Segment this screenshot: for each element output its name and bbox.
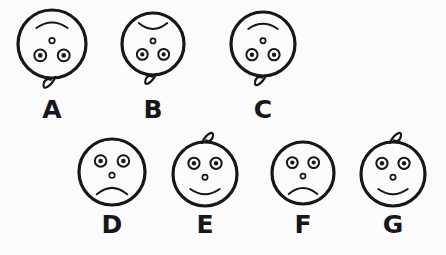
face-group xyxy=(173,133,237,206)
face-drawing-c xyxy=(205,0,321,102)
face-figure-c xyxy=(205,0,321,102)
face-group xyxy=(272,142,334,204)
nose-a xyxy=(49,38,55,44)
face-figure-b xyxy=(96,0,210,101)
face-label-d: D xyxy=(82,212,142,237)
face-group xyxy=(231,12,295,85)
pupil-right-c xyxy=(250,53,254,57)
mouth-g xyxy=(378,189,407,194)
face-group xyxy=(122,13,184,84)
pupil-left-g xyxy=(380,161,384,165)
pupil-left-e xyxy=(192,161,196,165)
nose-g xyxy=(390,175,395,180)
mouth-a xyxy=(36,22,67,28)
pupil-right-e xyxy=(214,161,218,165)
mouth-c xyxy=(248,24,277,29)
pupil-right-f xyxy=(312,161,316,165)
nose-e xyxy=(202,175,207,180)
pupil-left-f xyxy=(290,161,294,165)
pupil-left-b xyxy=(162,52,166,56)
mouth-d xyxy=(97,188,127,194)
nose-d xyxy=(109,173,114,178)
face-group xyxy=(361,133,425,206)
face-group xyxy=(79,139,145,205)
pupil-right-g xyxy=(402,161,406,165)
mouth-b xyxy=(139,23,168,29)
nose-c xyxy=(260,38,265,43)
face-label-g: G xyxy=(363,212,423,237)
face-group xyxy=(18,10,86,88)
pupil-left-d xyxy=(98,159,102,163)
pupil-right-a xyxy=(38,53,43,58)
figure-canvas: ABCDEFG xyxy=(0,0,446,255)
face-label-f: F xyxy=(273,212,333,237)
pupil-right-d xyxy=(121,159,125,163)
pupil-left-a xyxy=(61,53,66,58)
mouth-e xyxy=(190,189,219,194)
pupil-left-c xyxy=(272,53,276,57)
face-label-e: E xyxy=(175,212,235,237)
pupil-right-b xyxy=(140,52,144,56)
mouth-f xyxy=(289,188,318,194)
nose-b xyxy=(150,38,155,43)
face-drawing-b xyxy=(96,0,210,101)
nose-f xyxy=(300,174,305,179)
